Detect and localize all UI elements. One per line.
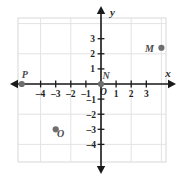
data-point-label-n: N: [101, 70, 110, 81]
x-tick-label: –2: [65, 89, 76, 99]
y-tick-label: 1: [90, 64, 95, 74]
data-point-label-o: O: [57, 128, 64, 139]
x-axis-label: x: [164, 67, 171, 79]
x-tick-label: –4: [35, 89, 46, 99]
x-tick-label: 3: [144, 89, 149, 99]
y-tick-label: –3: [86, 125, 97, 135]
data-point-n: [98, 81, 104, 87]
origin-label: O: [100, 87, 107, 97]
x-tick-label: –3: [50, 89, 61, 99]
y-tick-label: 2: [90, 49, 95, 59]
data-point-m: [158, 45, 164, 51]
coordinate-plane-figure: –4–3–2–1123321–1–2–3–4 x y O MNOP: [0, 0, 182, 176]
data-point-label-p: P: [22, 69, 29, 80]
data-point-label-m: M: [144, 43, 155, 54]
y-tick-label: –4: [86, 140, 97, 150]
y-axis-label: y: [108, 6, 115, 18]
coordinate-plane-svg: –4–3–2–1123321–1–2–3–4 x y O MNOP: [0, 0, 182, 176]
x-tick-label: 1: [114, 89, 119, 99]
data-point-p: [19, 81, 25, 87]
y-tick-label: –2: [86, 110, 97, 120]
y-tick-label: 3: [90, 34, 95, 44]
x-tick-label: 2: [129, 89, 134, 99]
y-tick-label: –1: [86, 95, 97, 105]
